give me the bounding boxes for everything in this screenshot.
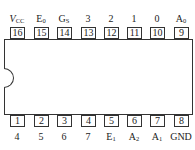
pin-3-label: 6 — [51, 131, 77, 142]
pin-1: 1 — [10, 115, 25, 127]
pin-13: 13 — [81, 27, 96, 39]
pin-11: 11 — [127, 27, 142, 39]
pin-14-label: GS — [51, 13, 77, 24]
pin-10-label: 0 — [144, 13, 170, 24]
pin-2: 2 — [34, 115, 49, 127]
pin-6: 6 — [127, 115, 142, 127]
pin-8-label: GND — [168, 131, 194, 142]
pin-9: 9 — [174, 27, 189, 39]
pin-10: 10 — [150, 27, 165, 39]
pin-5: 5 — [104, 115, 119, 127]
chip-body — [4, 39, 193, 115]
pin-1-label: 4 — [4, 131, 30, 142]
pin-16: 16 — [10, 27, 25, 39]
pin-3: 3 — [57, 115, 72, 127]
pin-7-label: A1 — [144, 131, 170, 142]
pin-9-label: A0 — [168, 13, 194, 24]
pin-15: 15 — [34, 27, 49, 39]
pin-8: 8 — [174, 115, 189, 127]
pin-7: 7 — [150, 115, 165, 127]
orientation-notch — [4, 68, 14, 88]
pin-16-label: VCC — [4, 13, 30, 24]
pin-4: 4 — [81, 115, 96, 127]
pin-12: 12 — [104, 27, 119, 39]
pin-14: 14 — [57, 27, 72, 39]
